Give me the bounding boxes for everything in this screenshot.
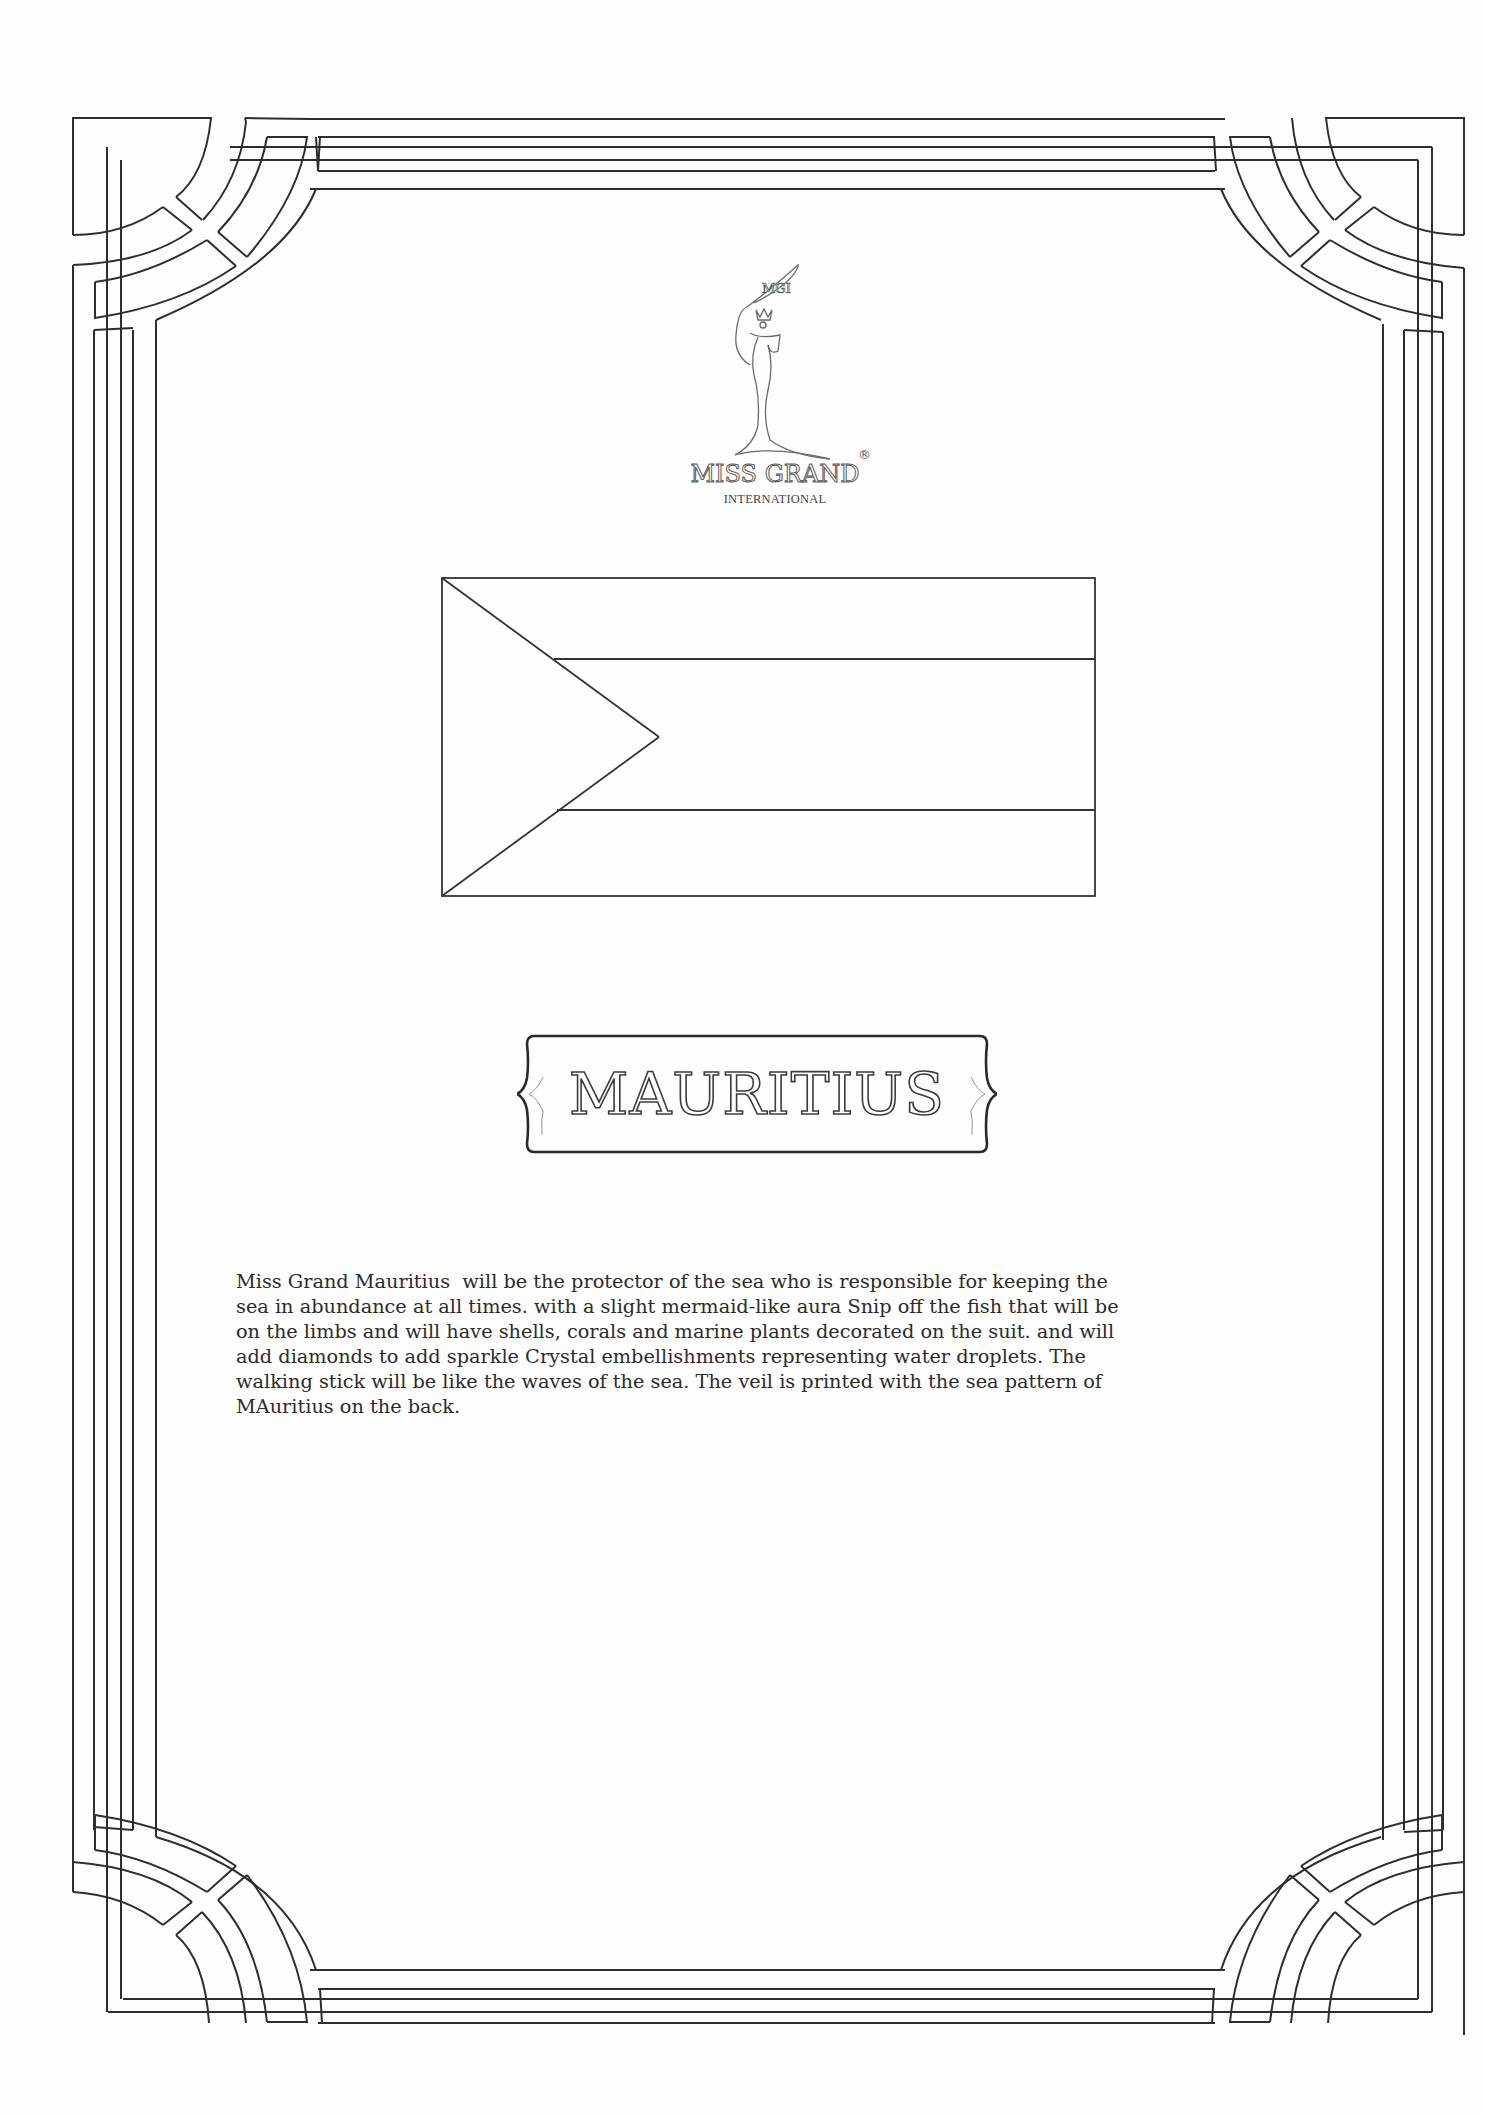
- svg-text:MGI: MGI: [762, 281, 791, 296]
- corner-ornament-bottom-right: [1221, 1815, 1464, 2023]
- flag-frame: [442, 578, 1095, 896]
- logo-brand-name: MISS GRAND: [650, 460, 900, 488]
- certificate-page: MGI ® MISS GRAND INTERNATIONAL MAURITIUS: [0, 0, 1485, 2114]
- description-line: walking stick will be like the waves of …: [236, 1369, 1316, 1394]
- description-line: Miss Grand Mauritius will be the protect…: [236, 1269, 1316, 1294]
- corner-ornament-top-left: [73, 118, 318, 320]
- description-paragraph: Miss Grand Mauritius will be the protect…: [236, 1269, 1316, 1419]
- pageant-figure-icon: MGI: [650, 255, 900, 465]
- border-left-lines: [73, 147, 156, 2012]
- corner-ornament-bottom-left: [73, 1815, 316, 2023]
- description-line: MAuritius on the back.: [236, 1394, 1316, 1419]
- border-top-lines: [230, 119, 1432, 189]
- border-right-lines: [1383, 147, 1464, 2035]
- description-line: add diamonds to add sparkle Crystal embe…: [236, 1344, 1316, 1369]
- description-line: sea in abundance at all times. with a sl…: [236, 1294, 1316, 1319]
- country-flag-outline: [441, 577, 1097, 898]
- country-title-banner: MAURITIUS: [517, 1032, 997, 1156]
- flag-triangle-top-edge: [442, 578, 659, 737]
- description-line: on the limbs and will have shells, coral…: [236, 1319, 1316, 1344]
- logo-subtitle: INTERNATIONAL: [650, 492, 900, 507]
- flag-triangle-bottom-edge: [442, 737, 659, 896]
- brand-logo: MGI ® MISS GRAND INTERNATIONAL: [650, 255, 900, 555]
- country-name-title: MAURITIUS: [517, 1032, 997, 1156]
- corner-ornament-top-right: [1221, 118, 1464, 320]
